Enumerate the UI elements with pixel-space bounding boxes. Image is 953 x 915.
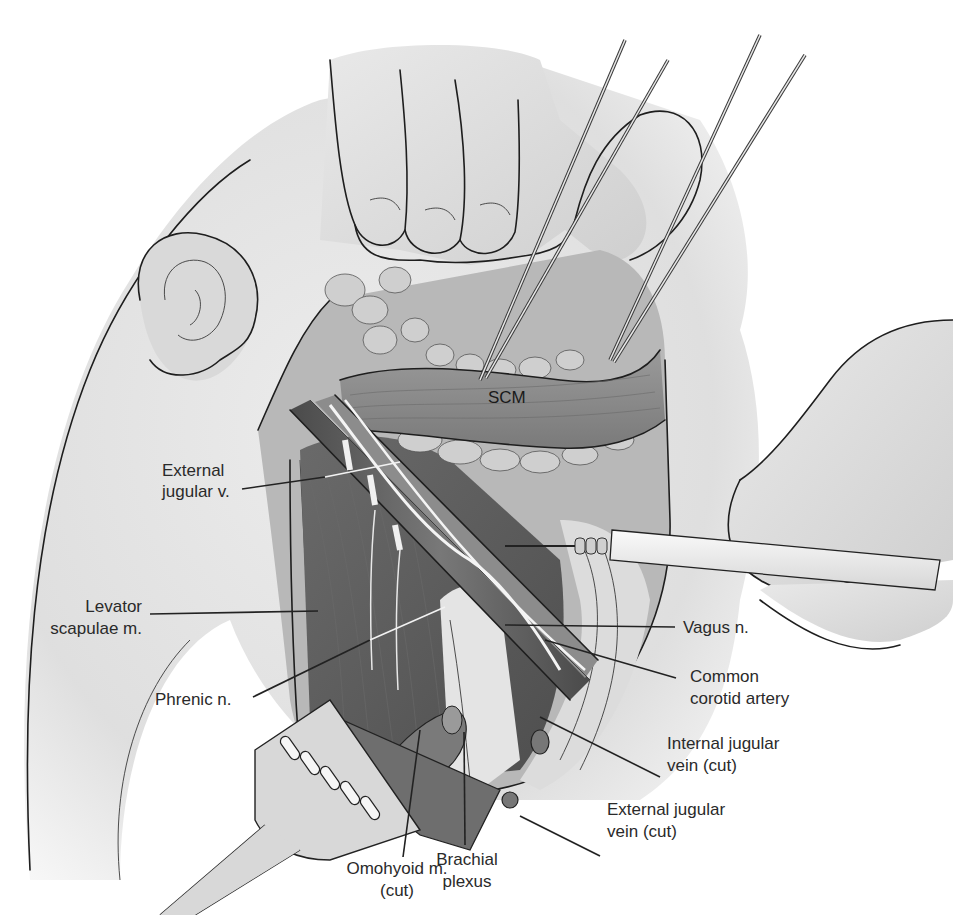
label-line-1: Common xyxy=(690,667,759,686)
anatomy-figure: SCM External jugular v. Levator scapulae… xyxy=(0,0,953,915)
label-line-2: (cut) xyxy=(380,881,414,900)
label-line-1: External xyxy=(162,461,224,480)
hand-right-icon xyxy=(728,320,953,649)
label-line-2: vein (cut) xyxy=(667,756,737,775)
label-line-1: External jugular xyxy=(607,800,725,819)
label-phrenic-n: Phrenic n. xyxy=(155,690,232,709)
label-omohyoid: Omohyoid m. (cut) xyxy=(346,859,447,900)
label-line-1: Levator xyxy=(85,597,142,616)
label-line-2: vein (cut) xyxy=(607,822,677,841)
label-line-2: corotid artery xyxy=(690,689,790,708)
label-scm: SCM xyxy=(488,388,526,407)
illustration-canvas: SCM External jugular v. Levator scapulae… xyxy=(0,0,953,915)
label-line-2: scapulae m. xyxy=(50,619,142,638)
label-external-jugular-cut: External jugular vein (cut) xyxy=(607,800,725,841)
label-line-1: Internal jugular xyxy=(667,734,780,753)
label-line-2: plexus xyxy=(442,872,491,891)
label-line-1: Omohyoid m. xyxy=(346,859,447,878)
label-line-2: jugular v. xyxy=(161,482,230,501)
label-vagus-n: Vagus n. xyxy=(683,618,749,637)
